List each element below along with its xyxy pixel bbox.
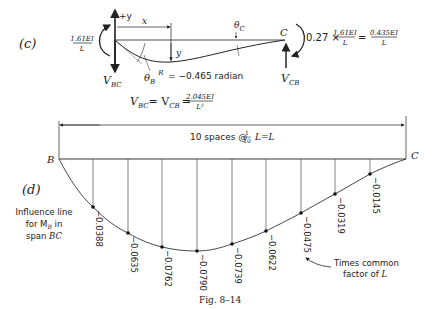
left-moment-label: 1.61EI L [70, 35, 94, 53]
diagram-canvas: (c) 1.61EI L +y x y θBR = −0.465 radian [0, 0, 436, 309]
svg-text:0.435EI: 0.435EI [370, 29, 398, 37]
ordinate-value: −0.0622 [267, 234, 277, 271]
svg-text:1.61EI: 1.61EI [70, 35, 94, 43]
svg-text:L: L [342, 39, 348, 47]
svg-text:Times common: Times common [333, 258, 399, 268]
node-c: C [411, 150, 419, 161]
y-axis-label: +y [119, 11, 133, 21]
node-c-top: C [280, 27, 288, 38]
ordinate-value: −0.0388 [94, 210, 104, 247]
svg-text:2.045EI: 2.045EI [185, 93, 214, 101]
v-cb-label: VCB [281, 72, 299, 87]
svg-text:10: 10 [243, 137, 251, 144]
svg-text:L: L [381, 39, 387, 47]
v-bc-label: VBC [103, 74, 122, 89]
part-c: (c) 1.61EI L +y x y θBR = −0.465 radian [19, 10, 398, 111]
part-d: 10 spaces @ 1 10 L=L B C (d) [15, 116, 419, 291]
svg-text:L²: L² [195, 103, 204, 111]
node-b: B [46, 154, 54, 165]
ordinate-value: −0.0145 [371, 177, 381, 214]
svg-text:L=L: L=L [254, 132, 275, 142]
dimension-text: 10 spaces @ [190, 132, 247, 142]
ordinate-value: −0.0739 [233, 247, 243, 284]
svg-text:for MB in: for MB in [26, 219, 63, 230]
influence-line-curve [59, 159, 406, 251]
y-label: y [175, 48, 182, 58]
ordinate-value: −0.0762 [163, 250, 173, 287]
deflected-shape [115, 40, 285, 62]
svg-text:1.61EI: 1.61EI [333, 29, 357, 37]
ordinate-value: −0.0635 [129, 236, 139, 273]
common-factor-note: Times common factor of L [333, 258, 399, 279]
shear-equation: VBC= VCB= [130, 95, 191, 110]
theta-c-symbol: θC [234, 20, 245, 33]
ordinate-value: −0.0790 [198, 254, 208, 291]
moment-arrow-c-icon [292, 24, 304, 56]
x-label: x [142, 16, 147, 26]
svg-text:L: L [79, 45, 85, 53]
ordinate-value: −0.0475 [302, 216, 312, 253]
svg-text:1: 1 [245, 129, 249, 136]
part-c-label: (c) [19, 36, 36, 51]
note-leader-arrow-icon [306, 258, 331, 267]
figure-caption: Fig. 8–14 [199, 295, 242, 305]
theta-b-value: = −0.465 radian [168, 71, 243, 81]
part-d-label: (d) [22, 182, 40, 197]
svg-text:Influence line: Influence line [15, 207, 72, 217]
svg-text:=: = [358, 32, 366, 43]
theta-b-symbol: θBR [144, 69, 164, 86]
moment-arrow-b-icon [100, 25, 111, 56]
ordinate-value: −0.0319 [336, 197, 346, 234]
influence-caption: Influence line for MB in span BC [15, 207, 72, 241]
svg-text:factor of L: factor of L [343, 269, 388, 279]
svg-text:span BC: span BC [26, 231, 63, 241]
ordinate-values: −0.0388 −0.0635 −0.0762 −0.0790 −0.0739 … [94, 177, 381, 291]
